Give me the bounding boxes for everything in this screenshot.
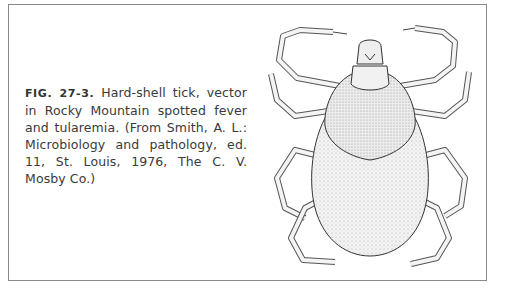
tick-illustration [255, 8, 485, 278]
figure-caption: FIG. 27-3. Hard-shell tick, vector in Ro… [25, 84, 247, 187]
figure-label: FIG. 27-3. [25, 87, 94, 100]
figure-caption-text: Hard-shell tick, vector in Rocky Mountai… [25, 85, 247, 186]
